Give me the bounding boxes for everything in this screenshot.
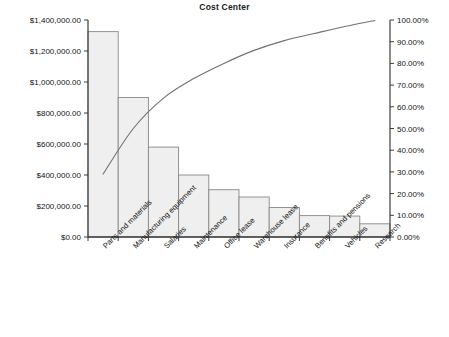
y-axis-right-tick-label: 100.00% — [397, 16, 429, 25]
y-axis-right-tick-label: 70.00% — [397, 81, 424, 90]
y-axis-right-tick-label: 50.00% — [397, 124, 424, 133]
y-axis-left-tick-label: $200,000.00 — [0, 202, 81, 211]
y-axis-right-tick-label: 40.00% — [397, 146, 424, 155]
y-axis-left-tick-label: $400,000.00 — [0, 171, 81, 180]
y-axis-right-tick-label: 10.00% — [397, 211, 424, 220]
y-axis-left-tick-label: $600,000.00 — [0, 140, 81, 149]
pareto-chart: Cost Center $0.00$200,000.00$400,000.00$… — [0, 0, 449, 337]
bar — [88, 32, 118, 237]
y-axis-left-tick-label: $1,200,000.00 — [0, 47, 81, 56]
y-axis-left-tick-label: $1,000,000.00 — [0, 78, 81, 87]
y-axis-right-tick-label: 30.00% — [397, 167, 424, 176]
y-axis-right-tick-label: 60.00% — [397, 102, 424, 111]
y-axis-left-tick-label: $0.00 — [0, 233, 81, 242]
y-axis-right-tick-label: 0.00% — [397, 233, 420, 242]
y-axis-left-tick-label: $800,000.00 — [0, 109, 81, 118]
y-axis-right-tick-label: 90.00% — [397, 37, 424, 46]
bars-group — [88, 32, 390, 237]
y-axis-left-tick-label: $1,400,000.00 — [0, 16, 81, 25]
y-axis-right-tick-label: 20.00% — [397, 189, 424, 198]
y-axis-right-tick-label: 80.00% — [397, 59, 424, 68]
